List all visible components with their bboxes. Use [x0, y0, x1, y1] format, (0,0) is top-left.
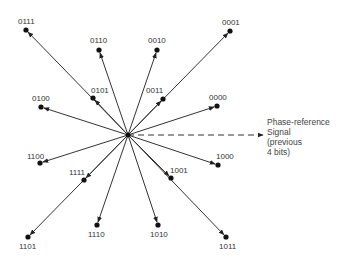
point-0101	[90, 95, 95, 100]
label-0000: 0000	[209, 93, 227, 102]
label-1100: 1100	[27, 152, 45, 161]
label-0011: 0011	[146, 86, 164, 95]
point-1101	[25, 234, 30, 239]
label-1000: 1000	[216, 152, 234, 161]
label-0010: 0010	[148, 36, 166, 45]
label-0110: 0110	[90, 36, 108, 45]
ref-line-1: Phase-reference	[267, 117, 347, 127]
label-1101: 1101	[19, 242, 37, 251]
point-1111	[81, 177, 86, 182]
point-0111	[23, 27, 28, 32]
vector-1011	[128, 135, 224, 235]
vector-1101	[30, 135, 128, 235]
point-0010	[154, 47, 159, 52]
point-1010	[155, 222, 160, 227]
label-1010: 1010	[150, 230, 168, 239]
ref-line-3: (previous	[267, 137, 347, 147]
point-1110	[94, 222, 99, 227]
vector-1010	[128, 135, 157, 222]
label-0100: 0100	[32, 94, 50, 103]
point-1001	[168, 175, 173, 180]
point-1100	[37, 160, 42, 165]
point-0110	[96, 47, 101, 52]
vector-0000	[128, 107, 214, 135]
phase-reference-label: Phase-reference Signal (previous 4 bits)	[267, 117, 347, 157]
label-0001: 0001	[222, 18, 240, 27]
point-0001	[227, 28, 232, 33]
label-0111: 0111	[18, 17, 35, 26]
ref-line-2: Signal	[267, 127, 347, 137]
origin-point	[126, 133, 131, 138]
point-0011	[160, 96, 165, 101]
vector-1110	[98, 135, 128, 222]
ref-line-4: 4 bits)	[267, 147, 347, 157]
label-1011: 1011	[219, 242, 237, 251]
point-0000	[214, 103, 219, 108]
label-1111: 1111	[69, 168, 86, 177]
point-1000	[215, 162, 220, 167]
label-1110: 1110	[88, 230, 105, 239]
label-0101: 0101	[91, 86, 109, 95]
label-1001: 1001	[170, 166, 188, 175]
point-1011	[223, 234, 228, 239]
point-0100	[38, 104, 43, 109]
vector-1000	[128, 135, 215, 164]
